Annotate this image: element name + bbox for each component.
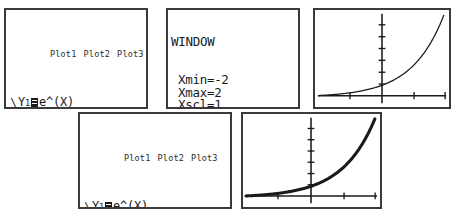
window-title: WINDOW [171, 36, 298, 49]
plot1-item[interactable]: Plot1 [50, 49, 77, 59]
y-editor-body-bottom: Plot1Plot2Plot3 \Y1e^(X)\Y2nDeriv(Y₁,X,X… [80, 114, 230, 209]
y-function-expression[interactable]: e^(X) [113, 199, 148, 209]
plot2-item[interactable]: Plot2 [84, 49, 111, 59]
graph-style-line-icon[interactable]: \ [83, 200, 92, 209]
y-function-label: Y [92, 199, 99, 209]
y-function-row[interactable]: \Y1e^(X) [83, 200, 230, 209]
y-function-list-top: \Y1e^(X)\Y2=\Y3=\Y4=\Y5=\Y6=\Y7= [9, 96, 146, 109]
axes-top [318, 14, 446, 103]
y-function-index: 1 [99, 202, 104, 209]
function-selected-equals-indicator[interactable] [105, 202, 112, 209]
window-settings-list: Xmin=-2Xmax=2Xscl=1Ymin=-·5Ymax=7Yscl=1X… [171, 74, 298, 109]
y-function-label: Y [18, 107, 25, 109]
window-setting-key: Xscl [178, 97, 207, 109]
y-function-expression[interactable]: e^(X) [39, 95, 74, 109]
function-selected-equals-indicator[interactable] [31, 98, 38, 107]
graph-canvas-top [315, 10, 449, 107]
graph-screen-top[interactable] [313, 8, 451, 109]
window-settings-screen[interactable]: WINDOW Xmin=-2Xmax=2Xscl=1Ymin=-·5Ymax=7… [166, 8, 300, 109]
equals-sign[interactable]: = [30, 107, 37, 109]
plot-header-top: Plot1Plot2Plot3 [9, 38, 146, 71]
y-editor-body-top: Plot1Plot2Plot3 \Y1e^(X)\Y2=\Y3=\Y4=\Y5=… [6, 10, 146, 109]
y-editor-screen-top[interactable]: Plot1Plot2Plot3 \Y1e^(X)\Y2=\Y3=\Y4=\Y5=… [4, 8, 148, 109]
y-function-row[interactable]: \Y2= [9, 108, 146, 109]
axes-bottom [246, 118, 377, 203]
plot2-item[interactable]: Plot2 [158, 153, 185, 163]
y-function-list-bottom: \Y1e^(X)\Y2nDeriv(Y₁,X,X)\Y3=\Y4=\Y5=\Y6… [83, 200, 230, 209]
plot1-item[interactable]: Plot1 [124, 153, 151, 163]
graph-screen-bottom[interactable] [241, 112, 382, 209]
plot-header-bottom: Plot1Plot2Plot3 [83, 142, 230, 175]
window-setting-row[interactable]: Xscl=1 [171, 99, 298, 109]
window-setting-value[interactable]: 1 [214, 97, 221, 109]
graph-canvas-bottom [243, 114, 380, 207]
plot3-item[interactable]: Plot3 [117, 49, 144, 59]
plot3-item[interactable]: Plot3 [191, 153, 218, 163]
window-body: WINDOW Xmin=-2Xmax=2Xscl=1Ymin=-·5Ymax=7… [168, 10, 298, 109]
y-editor-screen-bottom[interactable]: Plot1Plot2Plot3 \Y1e^(X)\Y2nDeriv(Y₁,X,X… [78, 112, 232, 209]
